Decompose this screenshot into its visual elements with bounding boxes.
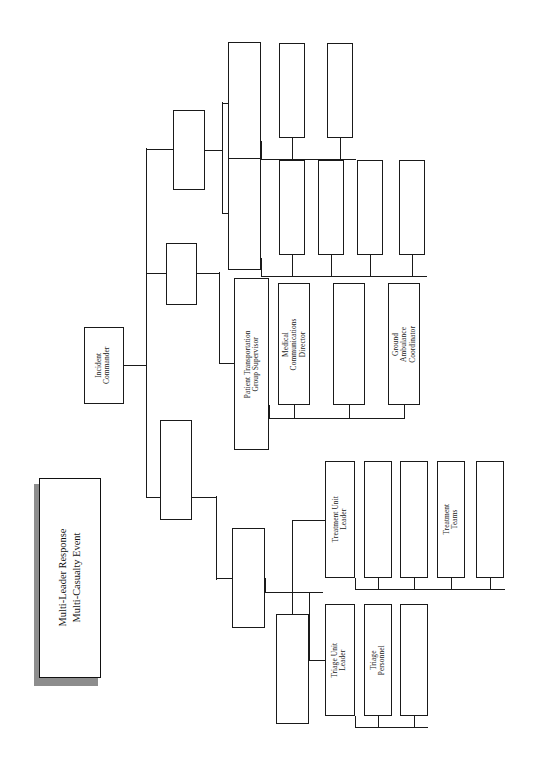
connector-g-to-tr [309,660,325,661]
node-label-treatment-teams: Treatment Teams [443,504,460,535]
connector-c-to-f [216,578,232,579]
node-label-ground-ambulance: Ground Ambulance Coordinator [392,326,417,363]
node-child-d2 [327,43,353,138]
connector-a-spine [222,102,223,214]
connector-ic-out [124,365,146,366]
node-treatment-child-4 [476,461,504,578]
node-branch-a [173,110,205,190]
connector-b-out [197,273,219,274]
node-unit-group-g [276,614,309,724]
node-ground-ambulance: Ground Ambulance Coordinator [388,283,420,405]
node-treatment-child-1 [364,461,392,578]
connector-ic-to-a [146,149,173,150]
node-label-medical-communications: Medical Communications Director [282,318,307,370]
connector-e-drop-2 [331,255,332,277]
node-child-e2 [318,160,344,255]
connector-c-spine [216,496,217,580]
connector-b-to-t [219,363,234,364]
connector-e-drop-3 [370,255,371,277]
connector-t-drop-3 [404,405,405,419]
connector-ic-to-c [146,497,160,498]
connector-trl-stem [355,716,356,728]
connector-e-drop-4 [412,255,413,277]
node-triage-unit-leader: Triage Unit Leader [325,604,355,716]
connector-d-drop-1 [292,138,293,160]
connector-f-bus [265,592,323,593]
connector-tul-stem [355,578,356,590]
node-triage-personnel: Triage Personnel [364,604,392,716]
title-block-label: Multi-Leader Response Multi-Casualty Eve… [56,529,83,627]
node-child-e3 [357,160,383,255]
connector-t-bus [269,418,404,419]
node-child-d1 [279,43,305,138]
connector-e-stem [261,258,262,277]
connector-tul-drop-4 [490,578,491,590]
title-block: Multi-Leader Response Multi-Casualty Eve… [39,478,101,678]
node-treatment-teams: Treatment Teams [437,461,465,578]
connector-f-tu-arm [292,520,325,521]
node-branch-e [228,158,261,270]
node-branch-b [166,243,197,305]
connector-f-to-g [292,592,293,614]
chart-canvas: Multi-Leader Response Multi-Casualty Eve… [0,0,543,770]
node-branch-d [228,42,261,162]
connector-trl-drop-1 [378,716,379,728]
node-label-treatment-unit-leader: Treatment Unit Leader [332,496,349,543]
connector-tul-drop-2 [414,578,415,590]
connector-d-drop-2 [340,138,341,160]
connector-c-out [192,497,216,498]
node-incident-commander: Incident Commander [84,327,124,404]
node-label-patient-transportation: Patient Transportation Group Supervisor [243,330,260,398]
connector-b-spine [219,272,220,364]
connector-f-stem [265,578,266,593]
connector-ic-to-b [146,273,166,274]
node-triage-child-2 [400,604,428,716]
connector-tul-drop-1 [378,578,379,590]
node-label-triage-personnel: Triage Personnel [370,645,387,675]
node-unit-group-f [232,528,265,628]
connector-t-drop-1 [294,405,295,419]
connector-f-to-tu [292,520,293,593]
connector-a-out [205,150,222,151]
connector-tul-drop-3 [451,578,452,590]
node-transport-child-2 [333,283,365,405]
connector-trl-bus [355,727,428,728]
node-label-incident-commander: Incident Commander [96,347,113,384]
node-label-triage-unit-leader: Triage Unit Leader [332,642,349,677]
node-child-e4 [399,160,425,255]
node-treatment-child-2 [400,461,428,578]
node-child-e1 [279,160,305,255]
connector-g-arm [309,592,310,661]
connector-e-drop-1 [292,255,293,277]
connector-t-stem [269,405,270,419]
node-branch-c [160,420,192,520]
node-patient-transportation: Patient Transportation Group Supervisor [234,278,269,450]
node-medical-communications: Medical Communications Director [278,283,310,405]
connector-d-stem [261,141,262,160]
connector-ic-spine [146,148,147,498]
connector-t-drop-2 [349,405,350,419]
connector-e-bus [261,276,427,277]
connector-trl-drop-2 [414,716,415,728]
node-treatment-unit-leader: Treatment Unit Leader [325,461,355,578]
